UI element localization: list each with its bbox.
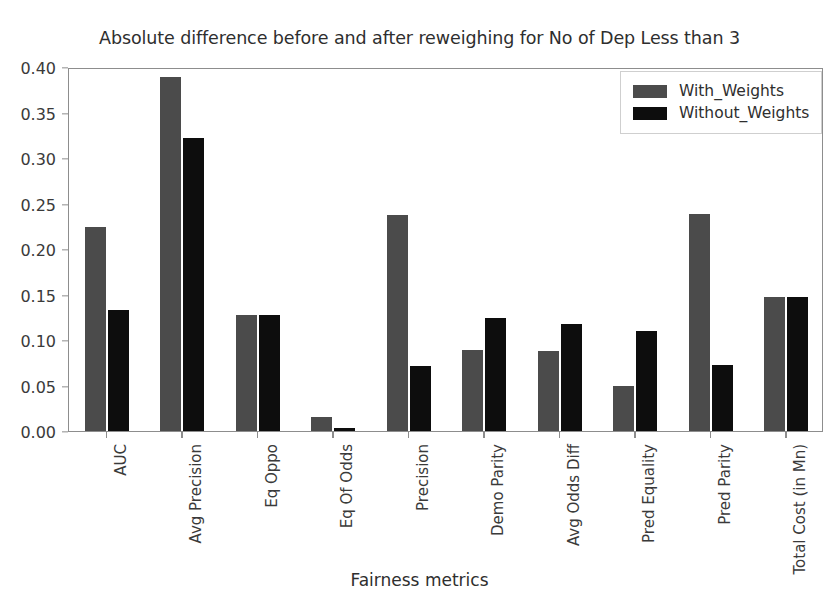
y-axis-tick-label: 0.00 [20, 423, 56, 442]
bar-eq-of-odds-without_weights [334, 428, 355, 431]
y-axis: 0.000.050.100.150.200.250.300.350.40 [0, 68, 68, 432]
legend-item-with-weights: With_Weights [633, 80, 809, 102]
x-axis-tick-mark [106, 432, 107, 438]
bar-total-cost-in-mn-without_weights [787, 297, 808, 431]
x-axis-tick-label: Total Cost (in Mn) [791, 444, 809, 575]
bar-precision-without_weights [410, 366, 431, 431]
x-axis-tick-mark [710, 432, 711, 438]
x-axis-tick-mark [559, 432, 560, 438]
x-axis-tick-label: Demo Parity [489, 444, 507, 536]
legend-swatch-icon-with-weights [633, 85, 667, 98]
x-axis-tick-label: Pred Parity [716, 444, 734, 525]
x-axis-tick-mark [785, 432, 786, 438]
x-axis-tick-mark [408, 432, 409, 438]
x-axis-tick-mark [332, 432, 333, 438]
x-axis-tick-label: Avg Odds Diff [565, 444, 583, 546]
x-axis-tick-label: AUC [112, 444, 130, 476]
legend-swatch-icon-without-weights [633, 107, 667, 120]
legend-label-with-weights: With_Weights [679, 82, 784, 100]
bar-eq-of-odds-with_weights [311, 417, 332, 431]
bar-avg-odds-diff-without_weights [561, 324, 582, 431]
x-axis-tick-label: Eq Of Odds [338, 444, 356, 528]
bar-avg-precision-without_weights [183, 138, 204, 431]
bar-total-cost-in-mn-with_weights [764, 297, 785, 431]
bar-pred-parity-with_weights [689, 214, 710, 431]
x-axis-tick-mark [483, 432, 484, 438]
x-axis-tick-label: Avg Precision [187, 444, 205, 543]
chart-title: Absolute difference before and after rew… [0, 28, 839, 48]
bar-avg-odds-diff-with_weights [538, 351, 559, 431]
y-axis-tick-label: 0.30 [20, 150, 56, 169]
bar-pred-equality-with_weights [613, 386, 634, 431]
chart-legend: With_Weights Without_Weights [620, 71, 822, 134]
legend-item-without-weights: Without_Weights [633, 102, 809, 124]
x-axis: AUCAvg PrecisionEq OppoEq Of OddsPrecisi… [68, 432, 823, 592]
x-axis-tick-label: Precision [414, 444, 432, 511]
x-axis-tick-label: Eq Oppo [263, 444, 281, 508]
bar-pred-equality-without_weights [636, 331, 657, 431]
bar-pred-parity-without_weights [712, 365, 733, 431]
y-axis-tick-label: 0.20 [20, 241, 56, 260]
bar-chart-figure: Absolute difference before and after rew… [0, 0, 839, 611]
y-axis-tick-label: 0.40 [20, 59, 56, 78]
bar-auc-without_weights [108, 310, 129, 431]
bar-demo-parity-without_weights [485, 318, 506, 431]
bar-demo-parity-with_weights [462, 350, 483, 431]
bar-eq-oppo-without_weights [259, 315, 280, 431]
y-axis-tick-label: 0.25 [20, 195, 56, 214]
x-axis-tick-label: Pred Equality [640, 444, 658, 543]
x-axis-tick-mark [181, 432, 182, 438]
bar-auc-with_weights [85, 227, 106, 431]
y-axis-tick-label: 0.10 [20, 332, 56, 351]
bar-precision-with_weights [387, 215, 408, 431]
x-axis-label: Fairness metrics [0, 570, 839, 590]
x-axis-tick-mark [634, 432, 635, 438]
bar-eq-oppo-with_weights [236, 315, 257, 431]
y-axis-tick-label: 0.15 [20, 286, 56, 305]
bar-avg-precision-with_weights [160, 77, 181, 431]
y-axis-tick-label: 0.35 [20, 104, 56, 123]
legend-label-without-weights: Without_Weights [679, 104, 809, 122]
y-axis-tick-label: 0.05 [20, 377, 56, 396]
x-axis-tick-mark [257, 432, 258, 438]
